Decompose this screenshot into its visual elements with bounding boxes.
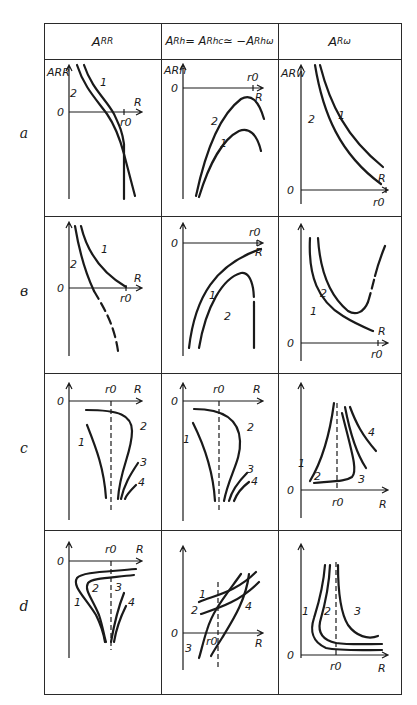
header-ARR: ARR [44, 23, 161, 59]
header-ARw-sub: Rω [337, 36, 351, 46]
curve-2 [194, 409, 240, 501]
origin-label: 0 [57, 555, 64, 568]
r0-label: r0 [371, 348, 383, 361]
origin-label: 0 [171, 627, 178, 640]
plot-b-ARh: 0 R r0 1 2 [161, 216, 278, 373]
plot-c-ARw: 0 R r0 1 2 3 4 [278, 373, 401, 530]
curve-label-1: 1 [100, 76, 107, 89]
header-ARw-label: A [328, 34, 337, 49]
origin-label: 0 [287, 337, 294, 350]
r0-label: r0 [332, 496, 344, 509]
x-axis-label: R [134, 272, 142, 285]
curve-1 [87, 425, 106, 498]
curve-label-4: 4 [368, 426, 375, 439]
table-right-border [401, 23, 402, 695]
curve-label-1: 1 [298, 457, 305, 470]
curve-label-2: 2 [224, 310, 231, 323]
plot-a-ARh: ARh 0 R r0 2 1 [161, 59, 278, 216]
curve-label-4: 4 [138, 476, 145, 489]
row-label-d: d [14, 598, 34, 614]
x-axis [69, 558, 142, 564]
origin-label: 0 [171, 237, 178, 250]
x-axis [69, 285, 142, 291]
curve-label-4: 4 [251, 475, 258, 488]
x-axis-label: R [255, 246, 263, 259]
x-axis-label: R [253, 383, 261, 396]
x-axis [301, 652, 388, 658]
curve-label-1: 1 [199, 588, 206, 601]
origin-label: 0 [57, 106, 64, 119]
curve-label-4: 4 [245, 600, 252, 613]
curve-label-1: 1 [74, 596, 81, 609]
plot-d-ARR: 0 R r0 1 2 3 4 [44, 530, 161, 694]
x-axis [301, 340, 388, 346]
r0-label: r0 [213, 383, 225, 396]
origin-label: 0 [57, 395, 64, 408]
plot-a-ARR: ARR 0 R r0 1 2 [44, 59, 161, 216]
x-axis [301, 187, 388, 193]
x-axis-label: R [378, 662, 386, 675]
header-ARw: ARω [278, 23, 401, 59]
x-axis [183, 240, 263, 246]
curve-label-3: 3 [140, 456, 147, 469]
curve-label-3: 3 [354, 605, 361, 618]
plot-c-ARR: 0 R r0 2 3 4 1 [44, 373, 161, 530]
curve-2-dashed [94, 291, 118, 351]
y-axis [66, 65, 72, 199]
plot-b-ARR: 0 R r0 1 2 [44, 216, 161, 373]
curve-label-2: 2 [70, 258, 77, 271]
x-axis-label: R [136, 543, 144, 556]
header-ARh-sub3: Rhω [254, 36, 274, 46]
curve-1 [199, 130, 261, 197]
curve-label-3: 3 [358, 473, 365, 486]
origin-label: 0 [171, 395, 178, 408]
curve-label-1: 1 [310, 305, 317, 318]
curve-2 [196, 97, 264, 196]
x-axis-label: R [255, 637, 263, 650]
curve-4 [114, 606, 126, 642]
y-axis-label: ARR [46, 66, 70, 79]
row-label-c: c [14, 440, 34, 456]
r0-label: r0 [247, 71, 259, 84]
row-label-a: a [14, 125, 34, 141]
curve-label-1: 1 [302, 605, 309, 618]
x-axis [301, 487, 388, 493]
curve-label-1: 1 [101, 243, 108, 256]
plot-b-ARw: 0 R r0 2 1 [278, 216, 401, 373]
curve-label-1: 1 [78, 436, 85, 449]
curve-label-2: 2 [247, 421, 254, 434]
origin-label: 0 [287, 184, 294, 197]
curve-2-dashed [253, 288, 254, 306]
curve-label-2: 2 [320, 287, 327, 300]
header-ARh-eq: = A [185, 34, 206, 48]
plot-c-ARh: 0 R r0 2 3 4 1 [161, 373, 278, 530]
x-axis-label: R [134, 96, 142, 109]
origin-label: 0 [287, 484, 294, 497]
y-axis [66, 383, 72, 520]
header-ARh-eq2: ≃ −A [223, 34, 254, 48]
header-ARh-sub: Rh [173, 36, 185, 46]
header-ARR-sub: RR [101, 36, 114, 46]
y-axis [298, 65, 304, 204]
curve-label-3: 3 [115, 581, 122, 594]
curve-label-3: 3 [185, 642, 192, 655]
curve-label-1: 1 [220, 137, 227, 150]
header-ARh-sub2: Rhc [206, 36, 223, 46]
x-axis [183, 398, 263, 404]
curve-3 [338, 565, 378, 638]
header-ARR-label: A [92, 34, 101, 49]
curve-label-2: 2 [140, 420, 147, 433]
header-ARh: ARh = ARhc ≃ −ARhω [161, 23, 278, 59]
origin-label: 0 [57, 282, 64, 295]
curve-1 [193, 423, 215, 501]
r0-label: r0 [105, 543, 117, 556]
origin-label: 0 [171, 82, 178, 95]
y-axis [66, 542, 72, 658]
curve-4 [125, 485, 136, 499]
curve-2-upper [375, 246, 385, 276]
r0-label: r0 [105, 383, 117, 396]
plot-d-ARh: 0 R r0 1 2 3 4 [161, 530, 278, 694]
table-bottom-border [44, 694, 401, 695]
r0-label: r0 [120, 292, 132, 305]
y-axis [66, 222, 72, 356]
